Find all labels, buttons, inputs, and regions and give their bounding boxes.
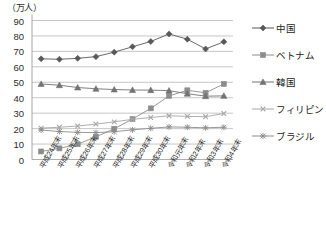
data-point-marker xyxy=(260,79,266,85)
legend-item-フィリピン[interactable]: フィリピン xyxy=(252,96,326,123)
data-point-marker xyxy=(38,127,44,133)
chart-legend: 中国ベトナム韓国フィリピンブラジル xyxy=(252,14,326,150)
data-point-marker xyxy=(38,56,44,62)
legend-label: ブラジル xyxy=(276,129,314,143)
data-point-marker xyxy=(93,130,99,136)
legend-marker-icon xyxy=(252,77,274,87)
data-point-marker xyxy=(260,25,266,31)
data-point-marker xyxy=(148,39,154,45)
data-point-marker xyxy=(75,55,81,61)
legend-label: 韓国 xyxy=(276,75,295,89)
data-point-marker xyxy=(130,44,136,50)
data-point-marker xyxy=(221,39,227,45)
data-point-marker xyxy=(167,93,172,98)
legend-label: ベトナム xyxy=(276,48,314,62)
data-point-marker xyxy=(203,125,209,131)
legend-item-韓国[interactable]: 韓国 xyxy=(252,68,326,95)
y-axis-tick-label: 70 xyxy=(2,46,24,57)
series-韓国 xyxy=(38,81,227,99)
legend-marker-icon xyxy=(252,104,274,114)
y-axis-tick-label: 60 xyxy=(2,61,24,72)
data-point-marker xyxy=(221,124,227,130)
y-axis-tick-label: 30 xyxy=(2,108,24,119)
legend-marker-icon xyxy=(252,131,274,141)
data-point-marker xyxy=(93,54,99,60)
y-axis-tick-label: 10 xyxy=(2,139,24,150)
data-point-marker xyxy=(148,106,153,111)
legend-item-ベトナム[interactable]: ベトナム xyxy=(252,41,326,68)
y-axis-tick-label: 80 xyxy=(2,30,24,41)
y-axis-unit-label: （万人） xyxy=(7,1,42,14)
legend-marker-icon xyxy=(252,50,274,60)
data-point-marker xyxy=(148,125,154,131)
y-axis-tick-label: 90 xyxy=(2,15,24,26)
data-point-marker xyxy=(221,81,226,86)
y-axis-tick-label: 0 xyxy=(2,154,24,165)
data-point-marker xyxy=(111,49,117,55)
legend-item-ブラジル[interactable]: ブラジル xyxy=(252,123,326,150)
data-point-marker xyxy=(184,36,190,42)
legend-label: フィリピン xyxy=(276,102,324,116)
data-point-marker xyxy=(130,127,136,133)
legend-marker-icon xyxy=(252,23,274,33)
data-point-marker xyxy=(75,129,81,135)
data-point-marker xyxy=(184,124,190,130)
y-axis-tick-label: 50 xyxy=(2,77,24,88)
data-point-marker xyxy=(261,52,266,57)
data-point-marker xyxy=(111,129,117,135)
legend-item-中国[interactable]: 中国 xyxy=(252,14,326,41)
line-chart: （万人） 0102030405060708090 平成24年末平成25年末平成2… xyxy=(0,0,326,226)
series-ブラジル xyxy=(38,124,227,136)
data-point-marker xyxy=(56,129,62,135)
data-point-marker xyxy=(166,124,172,130)
y-axis-tick-label: 20 xyxy=(2,123,24,134)
y-axis-tick-label: 40 xyxy=(2,92,24,103)
data-point-marker xyxy=(261,107,266,112)
data-point-marker xyxy=(56,56,62,62)
data-point-marker xyxy=(260,133,266,139)
legend-label: 中国 xyxy=(276,21,295,35)
